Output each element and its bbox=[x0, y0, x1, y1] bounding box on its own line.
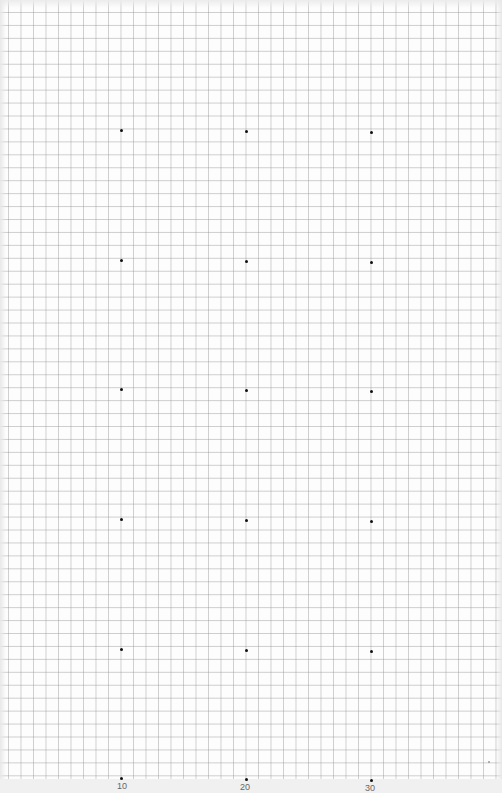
grid-dot bbox=[370, 390, 373, 393]
grid-dot bbox=[245, 130, 248, 133]
grid-dot bbox=[245, 389, 248, 392]
grid-dot bbox=[370, 779, 373, 782]
grid-dot bbox=[370, 650, 373, 653]
grid-dot bbox=[245, 778, 248, 781]
scale-label: 20 bbox=[240, 782, 250, 792]
grid-dot bbox=[120, 648, 123, 651]
grid-dot bbox=[245, 260, 248, 263]
scale-label: 10 bbox=[117, 781, 127, 791]
grid-dot bbox=[120, 259, 123, 262]
grid-dot bbox=[120, 388, 123, 391]
grid-dot bbox=[370, 520, 373, 523]
grid-dot bbox=[245, 649, 248, 652]
grid-dot bbox=[370, 261, 373, 264]
grid-dot bbox=[245, 519, 248, 522]
paper-right-edge bbox=[496, 0, 502, 793]
grid-dot bbox=[370, 131, 373, 134]
grid-dot bbox=[120, 518, 123, 521]
grid-dot bbox=[120, 129, 123, 132]
scale-label: 30 bbox=[365, 783, 375, 793]
graph-paper: 102030 bbox=[0, 0, 502, 793]
smudge-mark bbox=[488, 761, 490, 763]
paper-top-edge bbox=[0, 0, 502, 8]
paper-left-edge bbox=[0, 0, 6, 793]
grid-dot bbox=[120, 777, 123, 780]
paper-bottom-edge bbox=[0, 779, 502, 793]
